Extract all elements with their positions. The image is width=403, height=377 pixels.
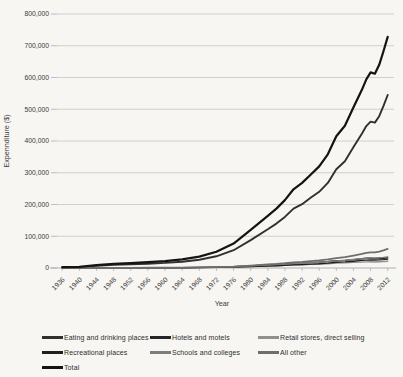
x-tick-label: 1980 xyxy=(239,276,255,292)
y-tick-label: 800,000 xyxy=(24,10,49,17)
series-line-eating-and-drinking-places xyxy=(62,95,387,267)
x-tick-label: 1988 xyxy=(273,276,289,292)
x-tick-label: 2008 xyxy=(359,276,375,292)
y-axis-title: Expennditure ($) xyxy=(2,114,11,167)
x-tick-label: 1944 xyxy=(85,276,101,292)
expenditure-line-chart: 2012200820042000199619921988198419801976… xyxy=(0,0,403,330)
x-tick-label: 1972 xyxy=(204,276,220,292)
legend-swatch-retail-stores-direct-selling xyxy=(258,336,279,338)
legend-item-hotels-and-motels: Hotels and motels xyxy=(150,334,230,341)
legend-item-all-other: All other xyxy=(258,349,307,356)
chart-container: 2012200820042000199619921988198419801976… xyxy=(0,0,403,330)
legend-swatch-recreational-places xyxy=(42,351,63,353)
legend-item-schools-and-colleges: Schools and colleges xyxy=(150,349,240,356)
legend-swatch-eating-and-drinking-places xyxy=(42,336,63,338)
x-tick-label: 1960 xyxy=(153,276,169,292)
y-tick-label: 600,000 xyxy=(24,74,49,81)
legend-item-total: Total xyxy=(42,364,79,371)
x-tick-label: 2000 xyxy=(324,276,340,292)
y-tick-label: 400,000 xyxy=(24,137,49,144)
x-tick-label: 2004 xyxy=(342,276,358,292)
legend-label: Retail stores, direct selling xyxy=(280,334,365,341)
legend-label: All other xyxy=(280,349,307,356)
legend-label: Total xyxy=(64,364,79,371)
x-tick-label: 1940 xyxy=(67,276,83,292)
x-tick-label: 1968 xyxy=(187,276,203,292)
legend-swatch-total xyxy=(42,366,63,369)
legend-swatch-all-other xyxy=(258,351,279,353)
x-axis-title: Year xyxy=(215,299,230,308)
x-tick-label: 1992 xyxy=(290,276,306,292)
legend-label: Recreational places xyxy=(64,349,127,356)
y-tick-label: 700,000 xyxy=(24,42,49,49)
x-tick-label: 1984 xyxy=(256,276,272,292)
x-tick-label: 1964 xyxy=(170,276,186,292)
legend-item-retail-stores-direct-selling: Retail stores, direct selling xyxy=(258,334,365,341)
legend-swatch-hotels-and-motels xyxy=(150,336,171,338)
legend-item-eating-and-drinking-places: Eating and drinking places xyxy=(42,334,149,341)
y-tick-label: 300,000 xyxy=(24,169,49,176)
x-tick-label: 1936 xyxy=(50,276,66,292)
x-tick-label: 1948 xyxy=(102,276,118,292)
legend-item-recreational-places: Recreational places xyxy=(42,349,127,356)
legend-label: Eating and drinking places xyxy=(64,334,149,341)
y-tick-label: 100,000 xyxy=(24,233,49,240)
y-tick-label: 200,000 xyxy=(24,201,49,208)
x-tick-label: 1956 xyxy=(136,276,152,292)
series-line-total xyxy=(62,37,387,267)
legend-label: Schools and colleges xyxy=(172,349,240,356)
y-tick-label: 0 xyxy=(45,264,49,271)
x-tick-label: 1996 xyxy=(307,276,323,292)
x-tick-label: 1952 xyxy=(119,276,135,292)
legend-label: Hotels and motels xyxy=(172,334,230,341)
y-tick-label: 500,000 xyxy=(24,106,49,113)
x-tick-label: 1976 xyxy=(222,276,238,292)
x-tick-label: 2012 xyxy=(376,276,392,292)
legend-swatch-schools-and-colleges xyxy=(150,351,171,353)
